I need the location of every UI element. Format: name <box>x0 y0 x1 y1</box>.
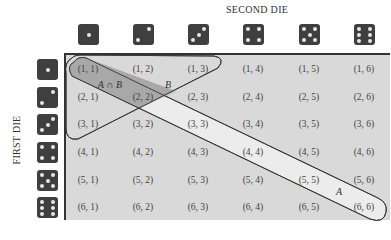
die-face-2-icon <box>37 87 58 108</box>
outcome-cell: (6, 6) <box>354 202 375 212</box>
outcome-cell: (1, 4) <box>243 64 264 74</box>
pip-icon <box>51 145 55 149</box>
pip-icon <box>147 27 151 31</box>
outcome-cell: (6, 2) <box>133 202 154 212</box>
pip-icon <box>51 173 55 177</box>
pip-icon <box>357 27 361 31</box>
die-face-6-icon <box>354 24 375 45</box>
pip-icon <box>136 38 140 42</box>
outcome-cell: (2, 2) <box>133 92 154 102</box>
pip-icon <box>313 27 317 31</box>
outcome-cell: (4, 1) <box>78 147 99 157</box>
pip-icon <box>308 33 312 37</box>
pip-icon <box>357 33 361 37</box>
pip-icon <box>40 101 44 105</box>
pip-icon <box>87 33 91 37</box>
outcome-cell: (4, 5) <box>299 147 320 157</box>
outcome-cell: (3, 3) <box>188 119 209 129</box>
outcome-cell: (4, 3) <box>188 147 209 157</box>
region-a-label: A <box>336 186 342 197</box>
outcome-cell: (3, 1) <box>78 119 99 129</box>
pip-icon <box>40 184 44 188</box>
pip-icon <box>51 184 55 188</box>
outcome-cell: (2, 5) <box>299 92 320 102</box>
outcome-cell: (3, 5) <box>299 119 320 129</box>
die-face-1-icon <box>37 59 58 80</box>
pip-icon <box>51 206 55 210</box>
pip-icon <box>46 179 50 183</box>
outcome-cell: (2, 4) <box>243 92 264 102</box>
outcome-cell: (4, 2) <box>133 147 154 157</box>
pip-icon <box>191 38 195 42</box>
region-b-label: B <box>165 79 171 90</box>
outcome-cell: (5, 5) <box>299 175 320 185</box>
die-face-3-icon <box>188 24 209 45</box>
pip-icon <box>302 27 306 31</box>
die-face-6-icon <box>37 197 58 218</box>
outcome-cell: (5, 4) <box>243 175 264 185</box>
die-face-3-icon <box>37 114 58 135</box>
pip-icon <box>51 117 55 121</box>
outcome-cell: (3, 6) <box>354 119 375 129</box>
pip-icon <box>51 212 55 216</box>
outcome-cell: (6, 3) <box>188 202 209 212</box>
outcome-cell: (3, 2) <box>133 119 154 129</box>
pip-icon <box>40 206 44 210</box>
outcome-cell: (5, 2) <box>133 175 154 185</box>
die-face-2-icon <box>133 24 154 45</box>
outcome-cell: (1, 3) <box>188 64 209 74</box>
pip-icon <box>40 156 44 160</box>
outcome-cell: (4, 4) <box>243 147 264 157</box>
intersection-label: A ∩ B <box>98 79 122 90</box>
pip-icon <box>202 27 206 31</box>
pip-icon <box>257 38 261 42</box>
outcome-cell: (1, 2) <box>133 64 154 74</box>
pip-icon <box>51 200 55 204</box>
pip-icon <box>40 173 44 177</box>
outcome-cell: (2, 6) <box>354 92 375 102</box>
pip-icon <box>51 156 55 160</box>
outcome-cell: (1, 6) <box>354 64 375 74</box>
outcome-cell: (6, 1) <box>78 202 99 212</box>
outcome-cell: (1, 5) <box>299 64 320 74</box>
pip-icon <box>40 212 44 216</box>
pip-icon <box>246 27 250 31</box>
pip-icon <box>246 38 250 42</box>
die-face-1-icon <box>78 24 99 45</box>
outcome-cell: (6, 4) <box>243 202 264 212</box>
pip-icon <box>368 27 372 31</box>
pip-icon <box>51 90 55 94</box>
pip-icon <box>40 128 44 132</box>
outcome-cell: (5, 1) <box>78 175 99 185</box>
pip-icon <box>357 39 361 43</box>
outcome-cell: (5, 6) <box>354 175 375 185</box>
outcome-cell: (2, 3) <box>188 92 209 102</box>
pip-icon <box>368 33 372 37</box>
pip-icon <box>302 38 306 42</box>
pip-icon <box>368 39 372 43</box>
pip-icon <box>40 200 44 204</box>
die-face-4-icon <box>243 24 264 45</box>
outcome-cell: (4, 6) <box>354 147 375 157</box>
outcome-cell: (2, 1) <box>78 92 99 102</box>
pip-icon <box>313 38 317 42</box>
pip-icon <box>257 27 261 31</box>
die-face-5-icon <box>37 170 58 191</box>
pip-icon <box>46 68 50 72</box>
outcome-cell: (3, 4) <box>243 119 264 129</box>
die-face-4-icon <box>37 142 58 163</box>
die-face-5-icon <box>299 24 320 45</box>
outcome-cell: (1, 1) <box>78 64 99 74</box>
outcome-cell: (6, 5) <box>299 202 320 212</box>
pip-icon <box>197 33 201 37</box>
pip-icon <box>46 123 50 127</box>
pip-icon <box>40 145 44 149</box>
outcome-cell: (5, 3) <box>188 175 209 185</box>
